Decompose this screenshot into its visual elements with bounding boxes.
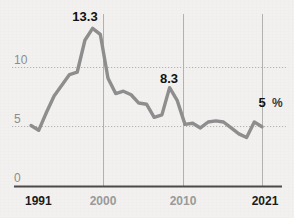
annotation-current-5: 5 <box>258 95 265 110</box>
x-tick-label-2010: 2010 <box>170 194 197 208</box>
chart-container: 10 5 0 1991 2000 2010 2021 13.3 8.3 5 % <box>0 0 294 218</box>
x-tick-label-1991: 1991 <box>25 194 52 208</box>
y-tick-label-0: 0 <box>14 171 21 185</box>
y-tick-label-5: 5 <box>14 112 21 126</box>
x-tick-label-2021: 2021 <box>252 194 279 208</box>
annotation-peak-13-3: 13.3 <box>72 9 97 24</box>
y-tick-label-10: 10 <box>14 53 28 67</box>
x-tick-label-2000: 2000 <box>90 194 117 208</box>
series-line-unemployment-rate <box>31 28 262 137</box>
annotation-bump-8-3: 8.3 <box>160 71 178 86</box>
line-chart: 10 5 0 1991 2000 2010 2021 13.3 8.3 5 % <box>0 0 294 218</box>
annotation-current-unit-percent: % <box>272 96 283 110</box>
